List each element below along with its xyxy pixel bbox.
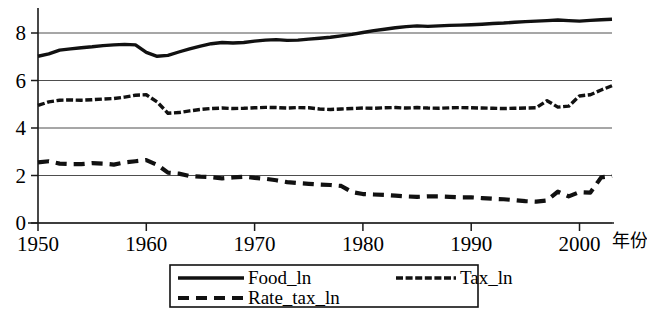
- chart-legend: Food_lnTax_lnRate_tax_ln: [170, 265, 513, 308]
- chart-axes: [28, 8, 614, 223]
- x-axis-tick-labels: 195019601970198019902000: [17, 232, 601, 256]
- time-series-chart: 02468 195019601970198019902000 年份 Food_l…: [0, 0, 647, 309]
- x-tick-label-1970: 1970: [234, 232, 276, 256]
- axis-ticks: [31, 33, 580, 231]
- y-tick-label-2: 2: [16, 164, 27, 188]
- gridlines: [38, 33, 612, 223]
- data-series: [38, 19, 612, 201]
- x-tick-label-1980: 1980: [342, 232, 384, 256]
- x-axis-title: 年份: [612, 230, 647, 251]
- y-tick-label-6: 6: [16, 69, 27, 93]
- x-tick-label-1990: 1990: [450, 232, 492, 256]
- y-axis-tick-labels: 02468: [16, 21, 27, 235]
- chart-container: 02468 195019601970198019902000 年份 Food_l…: [0, 0, 647, 309]
- legend-label-food_ln: Food_ln: [248, 267, 312, 288]
- y-tick-label-4: 4: [16, 116, 27, 140]
- legend-label-tax_ln: Tax_ln: [460, 267, 513, 288]
- x-tick-label-1960: 1960: [125, 232, 167, 256]
- x-tick-label-1950: 1950: [17, 232, 59, 256]
- series-line-tax_ln: [38, 86, 612, 114]
- series-line-food_ln: [38, 19, 612, 56]
- x-tick-label-2000: 2000: [559, 232, 601, 256]
- y-tick-label-8: 8: [16, 21, 27, 45]
- legend-label-rate_tax_ln: Rate_tax_ln: [248, 287, 340, 308]
- series-line-rate_tax_ln: [38, 160, 612, 202]
